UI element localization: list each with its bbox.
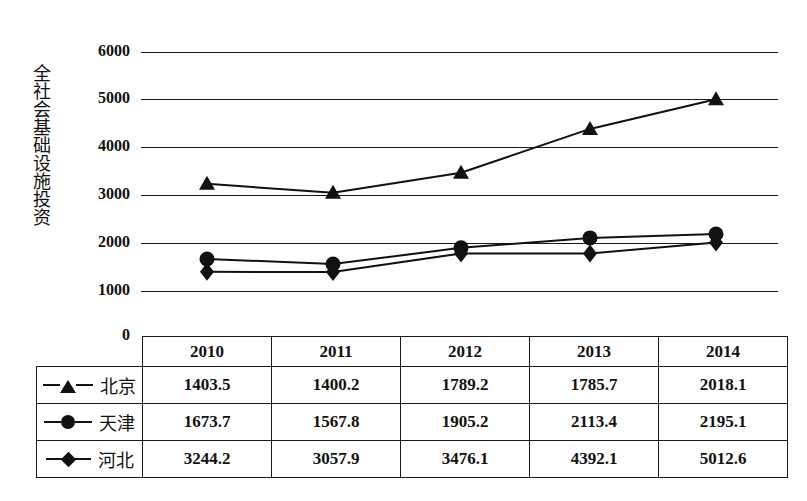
legend-label: 北京 (100, 372, 136, 398)
table-cell: 3057.9 (272, 441, 401, 478)
diamond-marker-icon (200, 263, 214, 281)
legend-label: 河北 (98, 446, 134, 472)
circle-marker-icon (61, 415, 75, 429)
triangle-marker-icon (199, 176, 215, 190)
legend-line-right (75, 421, 92, 423)
column-header-2011: 2011 (272, 337, 401, 367)
column-header-2014: 2014 (659, 337, 788, 367)
plot-area (0, 0, 807, 340)
series-layer (199, 91, 724, 281)
table-cell: 1403.5 (143, 367, 272, 404)
data-table: 2010 2011 2012 2013 2014 北京1403.51400.21… (36, 336, 788, 478)
triangle-marker-icon (708, 91, 724, 105)
table-cell: 3476.1 (401, 441, 530, 478)
chart-figure: 全社会基础设施投资 6000 5000 4000 3000 2000 1000 … (0, 0, 807, 501)
table-cell: 1567.8 (272, 404, 401, 441)
table-cell: 1905.2 (401, 404, 530, 441)
table-cell: 1673.7 (143, 404, 272, 441)
table-cell: 1400.2 (272, 367, 401, 404)
legend-cell-triangle: 北京 (37, 367, 143, 404)
table-row: 天津1673.71567.81905.22113.42195.1 (37, 404, 788, 441)
circle-marker-icon (583, 230, 598, 245)
legend-line-left (43, 384, 60, 386)
table-cell: 3244.2 (143, 441, 272, 478)
table-corner-cell (37, 337, 143, 367)
table-cell: 1789.2 (401, 367, 530, 404)
table-header-row: 2010 2011 2012 2013 2014 (37, 337, 788, 367)
table-cell: 2195.1 (659, 404, 788, 441)
table-cell: 2113.4 (530, 404, 659, 441)
table-cell: 4392.1 (530, 441, 659, 478)
table-row: 北京1403.51400.21789.21785.72018.1 (37, 367, 788, 404)
triangle-marker-icon (60, 380, 76, 393)
column-header-2013: 2013 (530, 337, 659, 367)
legend-line-left (44, 421, 61, 423)
legend-line-right (76, 384, 93, 386)
table-cell: 2018.1 (659, 367, 788, 404)
diamond-marker-icon (60, 451, 76, 467)
table-body: 北京1403.51400.21789.21785.72018.1天津1673.7… (37, 367, 788, 478)
column-header-2010: 2010 (143, 337, 272, 367)
diamond-marker-icon (583, 245, 597, 263)
legend-cell-circle: 天津 (37, 404, 143, 441)
table-row: 河北3244.23057.93476.14392.15012.6 (37, 441, 788, 478)
table-cell: 5012.6 (659, 441, 788, 478)
column-header-2012: 2012 (401, 337, 530, 367)
legend-label: 天津 (99, 409, 135, 435)
table-cell: 1785.7 (530, 367, 659, 404)
legend-cell-diamond: 河北 (37, 441, 143, 478)
